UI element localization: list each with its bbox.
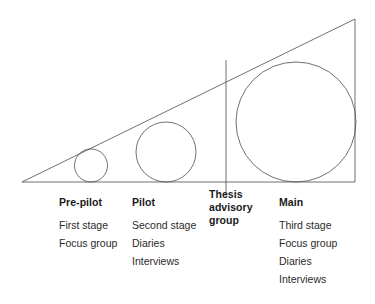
legend-heading-main: Main — [279, 196, 369, 209]
legend-item: Focus group — [59, 234, 131, 252]
legend-column-thesis-advisory-group: Thesis advisory group — [209, 188, 275, 230]
legend-item: Interviews — [279, 270, 369, 288]
triangle-circles-figure — [0, 0, 375, 208]
legend-item: Second stage — [132, 216, 208, 234]
legend-column-main: Main Third stage Focus group Diaries Int… — [279, 196, 369, 288]
diagram-root: Pre-pilot First stage Focus group Pilot … — [0, 0, 375, 304]
legend-item: First stage — [59, 216, 131, 234]
legend-heading-pilot: Pilot — [132, 196, 208, 209]
legend-item: Third stage — [279, 216, 369, 234]
pre-pilot-circle — [75, 149, 108, 182]
main-circle — [236, 62, 356, 182]
triangle-outline — [22, 19, 355, 182]
legend-heading-thesis-advisory-group: Thesis advisory group — [209, 188, 275, 227]
pilot-circle — [136, 122, 196, 182]
legend-heading-pre-pilot: Pre-pilot — [59, 196, 131, 209]
legend-item: Diaries — [132, 234, 208, 252]
growth-triangle — [22, 19, 355, 182]
legend-item: Focus group — [279, 234, 369, 252]
legend-item: Interviews — [132, 252, 208, 270]
legend-column-pilot: Pilot Second stage Diaries Interviews — [132, 196, 208, 270]
legend-item: Diaries — [279, 252, 369, 270]
legend: Pre-pilot First stage Focus group Pilot … — [0, 196, 375, 304]
legend-column-pre-pilot: Pre-pilot First stage Focus group — [59, 196, 131, 252]
